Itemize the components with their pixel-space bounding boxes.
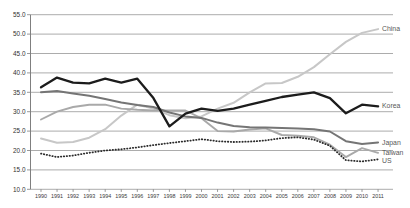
y-axis-label-50: 50.0 (13, 30, 26, 37)
x-axis-label-2007: 2007 (308, 193, 320, 199)
x-axis-label-2009: 2009 (340, 193, 352, 199)
series-label-china: China (382, 25, 400, 32)
x-axis-label-1992: 1992 (67, 193, 79, 199)
x-axis-label-2010: 2010 (356, 193, 368, 199)
x-axis-label-1990: 1990 (35, 193, 47, 199)
x-axis-label-2000: 2000 (196, 193, 208, 199)
x-axis-label-1997: 1997 (147, 193, 159, 199)
series-label-japan: Japan (382, 139, 401, 147)
x-axis-label-1995: 1995 (115, 193, 127, 199)
x-axis-label-1994: 1994 (99, 193, 111, 199)
y-axis-label-10: 10.0 (13, 186, 26, 193)
y-axis-label-40: 40.0 (13, 69, 26, 76)
x-axis-label-2001: 2001 (212, 193, 224, 199)
investment-rate-line-chart: 55.050.045.040.035.030.025.020.015.010.0… (0, 0, 410, 208)
series-line-us (41, 137, 378, 161)
x-axis-label-2002: 2002 (228, 193, 240, 199)
series-line-korea (41, 78, 378, 127)
line-chart-canvas: 55.050.045.040.035.030.025.020.015.010.0… (0, 0, 410, 208)
x-axis-label-2008: 2008 (324, 193, 336, 199)
series-label-taiwan: Taiwan (382, 149, 404, 156)
series-label-us: US (382, 157, 392, 164)
y-axis-label-30: 30.0 (13, 108, 26, 115)
x-axis-label-2005: 2005 (276, 193, 288, 199)
y-axis-label-35: 35.0 (13, 89, 26, 96)
y-axis-label-25: 25.0 (13, 127, 26, 134)
x-axis-label-1991: 1991 (51, 193, 63, 199)
x-axis-label-2004: 2004 (260, 193, 272, 199)
x-axis-label-2011: 2011 (372, 193, 384, 199)
y-axis-label-55: 55.0 (13, 11, 26, 18)
x-axis-label-2006: 2006 (292, 193, 304, 199)
series-label-korea: Korea (382, 102, 401, 109)
y-axis-label-15: 15.0 (13, 166, 26, 173)
x-axis-label-2003: 2003 (244, 193, 256, 199)
y-axis-label-20: 20.0 (13, 147, 26, 154)
y-axis-label-45: 45.0 (13, 50, 26, 57)
x-axis-label-1993: 1993 (83, 193, 95, 199)
x-axis-label-1996: 1996 (131, 193, 143, 199)
x-axis-label-1998: 1998 (163, 193, 175, 199)
x-axis-label-1999: 1999 (179, 193, 191, 199)
